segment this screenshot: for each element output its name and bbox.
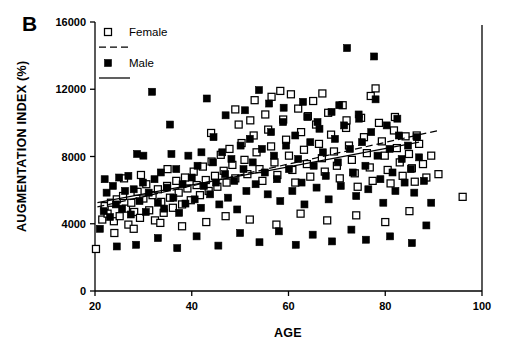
data-point [194,162,201,169]
data-point [389,169,396,176]
data-point [240,166,247,173]
data-point [246,216,253,223]
data-point [392,187,399,194]
data-point [232,106,239,113]
data-point [111,230,118,237]
data-point [166,121,173,128]
legend: FemaleMale [99,26,167,78]
x-tick-label: 20 [89,300,101,312]
data-point [435,171,442,178]
data-point [252,181,259,188]
data-point [277,198,284,205]
data-point [188,174,195,181]
data-point [359,139,366,146]
legend-marker-open-square [105,29,112,36]
data-point [355,111,362,118]
data-point [185,152,192,159]
data-point [157,219,164,226]
data-point [101,176,108,183]
data-point [109,182,116,189]
data-point [273,176,280,183]
data-point [270,152,277,159]
data-point [179,223,186,230]
data-point [371,53,378,60]
data-point [297,210,304,217]
data-point [307,173,314,180]
data-point [428,199,435,206]
data-point [262,111,269,118]
data-point [203,219,210,226]
data-point [300,146,307,153]
data-point [112,201,119,208]
data-point [322,172,329,179]
scatter-plot-augmentation-index-vs-age: B AUGMENTATION INDEX (%) AGE 04000800012… [0,0,512,349]
data-point [280,119,287,126]
y-axis-title: AUGMENTATION INDEX (%) [15,61,29,232]
data-point [191,196,198,203]
data-point [273,221,280,228]
data-point [314,119,321,126]
data-point [266,100,273,107]
data-point [292,179,299,186]
data-point [337,182,344,189]
data-point [154,235,161,242]
data-point [353,212,360,219]
data-point [353,193,360,200]
data-point [100,208,107,215]
data-point [309,231,316,238]
data-point [285,152,292,159]
data-point [207,191,214,198]
data-point [113,243,120,250]
data-point [416,140,423,147]
data-point [336,102,343,109]
data-point [130,186,137,193]
data-point [157,169,164,176]
data-point [228,156,235,163]
data-point [255,87,262,94]
data-point [328,108,335,115]
data-point [324,217,331,224]
data-point [219,149,226,156]
data-point [428,152,435,159]
data-point [275,228,282,235]
data-point [128,199,135,206]
data-point [103,189,110,196]
data-point [407,166,414,173]
data-point [169,204,176,211]
data-point [130,225,137,232]
data-point [277,87,284,94]
data-point [315,140,322,147]
data-point [372,96,379,103]
data-point [271,159,278,166]
data-point [416,154,423,161]
data-point [127,211,134,218]
data-point [375,119,382,126]
data-point [304,113,311,120]
data-point [235,121,242,128]
data-point [395,132,402,139]
data-point [381,152,388,159]
data-point [251,97,258,104]
data-point [459,193,466,200]
data-point [368,129,375,136]
figure-panel-b: B AUGMENTATION INDEX (%) AGE 04000800012… [0,0,512,349]
data-point [307,139,314,146]
data-point [300,98,307,105]
data-point [411,178,418,185]
data-point [334,159,341,166]
data-point [387,180,394,187]
data-point [193,233,200,240]
data-point [398,156,405,163]
data-point [222,171,229,178]
data-point [222,112,229,119]
data-point [197,204,204,211]
data-point [264,191,271,198]
data-point [116,174,123,181]
data-point [92,245,99,252]
data-point [215,242,222,249]
data-point [173,177,180,184]
data-point [164,166,171,173]
data-point [298,179,305,186]
data-point [231,177,238,184]
data-point [336,175,343,182]
